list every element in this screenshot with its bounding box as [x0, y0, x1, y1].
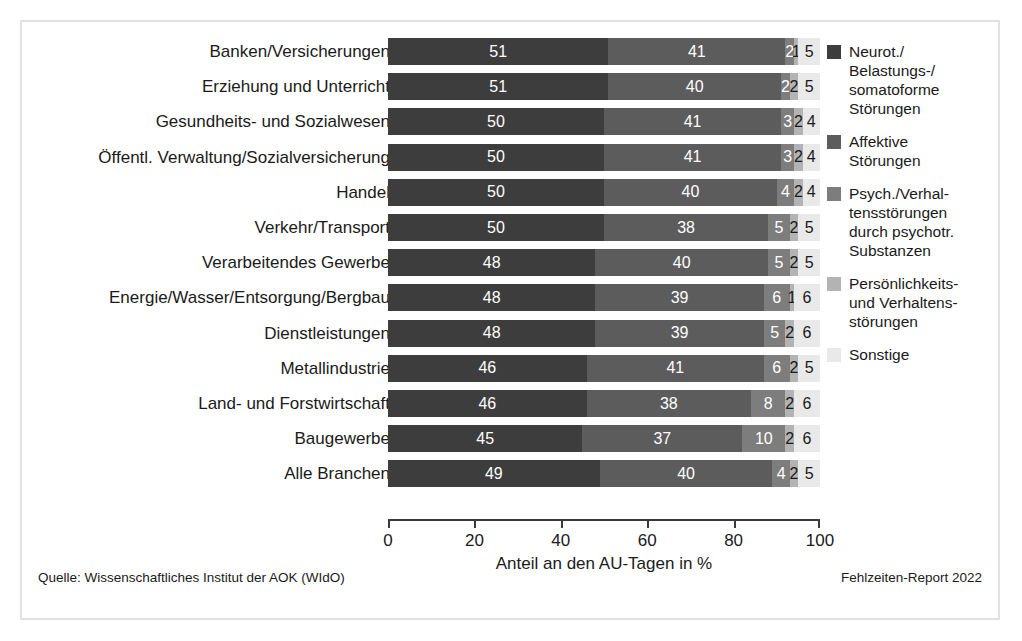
legend-item[interactable]: Neurot./ Belastungs-/ somatoforme Störun… — [827, 42, 1002, 118]
segment-value: 50 — [487, 220, 505, 236]
axis-tick — [734, 519, 736, 528]
bar-segment: 6 — [764, 355, 790, 382]
bar-segment: 50 — [388, 144, 604, 171]
segment-value: 6 — [803, 290, 812, 306]
segment-value: 2 — [781, 79, 790, 95]
bar-segment: 2 — [794, 179, 803, 206]
bar-segment: 41 — [608, 38, 785, 65]
stacked-bar: 4940425 — [388, 460, 820, 487]
legend-item[interactable]: Affektive Störungen — [827, 132, 1002, 170]
segment-value: 41 — [684, 149, 702, 165]
legend-label: Sonstige — [849, 345, 909, 364]
bar-segment: 50 — [388, 214, 604, 241]
segment-value: 50 — [487, 149, 505, 165]
stacked-bar: 4840525 — [388, 249, 820, 276]
segment-value: 5 — [805, 255, 814, 271]
bar-segment: 5 — [798, 460, 820, 487]
bar-segment: 48 — [388, 320, 595, 347]
segment-value: 4 — [781, 184, 790, 200]
bar-segment: 5 — [768, 214, 790, 241]
bar-segment: 6 — [794, 320, 820, 347]
bar-segment: 4 — [772, 460, 789, 487]
segment-value: 4 — [777, 466, 786, 482]
bar-segment: 41 — [604, 144, 781, 171]
chart-row: Baugewerbe45371026 — [22, 425, 1002, 452]
bar-segment: 40 — [608, 73, 781, 100]
bar-segment: 2 — [790, 73, 799, 100]
bar-segment: 2 — [794, 144, 803, 171]
stacked-bar: 4638826 — [388, 390, 820, 417]
axis-tick — [388, 519, 390, 528]
segment-value: 41 — [666, 360, 684, 376]
segment-value: 46 — [478, 360, 496, 376]
bar-segment: 50 — [388, 108, 604, 135]
axis-tick-label: 80 — [724, 531, 743, 551]
bar-segment: 2 — [785, 390, 794, 417]
segment-value: 4 — [807, 149, 816, 165]
segment-value: 40 — [673, 255, 691, 271]
segment-value: 51 — [489, 44, 507, 60]
segment-value: 5 — [805, 79, 814, 95]
segment-value: 6 — [772, 360, 781, 376]
bar-segment: 39 — [595, 320, 763, 347]
bar-segment: 46 — [388, 355, 587, 382]
category-label: Banken/Versicherungen — [30, 38, 390, 65]
segment-value: 40 — [677, 466, 695, 482]
bar-segment: 3 — [781, 144, 794, 171]
legend-label: Persönlichkeits- und Verhaltens- störung… — [849, 274, 958, 331]
segment-value: 4 — [807, 114, 816, 130]
bar-segment: 2 — [785, 320, 794, 347]
category-label: Baugewerbe — [30, 425, 390, 452]
bar-segment: 2 — [785, 425, 794, 452]
segment-value: 2 — [790, 255, 799, 271]
stacked-bar: 45371026 — [388, 425, 820, 452]
segment-value: 5 — [775, 255, 784, 271]
segment-value: 2 — [794, 184, 803, 200]
segment-value: 45 — [476, 431, 494, 447]
report-note: Fehlzeiten-Report 2022 — [841, 570, 982, 585]
category-label: Alle Branchen — [30, 460, 390, 487]
bar-segment: 4 — [803, 108, 820, 135]
segment-value: 38 — [677, 220, 695, 236]
segment-value: 49 — [485, 466, 503, 482]
segment-value: 5 — [805, 220, 814, 236]
segment-value: 50 — [487, 114, 505, 130]
stacked-bar: 5141215 — [388, 38, 820, 65]
legend-swatch-icon — [827, 45, 841, 59]
legend-label: Neurot./ Belastungs-/ somatoforme Störun… — [849, 42, 939, 118]
segment-value: 39 — [671, 290, 689, 306]
bar-segment: 41 — [587, 355, 764, 382]
legend-item[interactable]: Sonstige — [827, 345, 1002, 364]
bar-segment: 2 — [794, 108, 803, 135]
bar-segment: 4 — [803, 179, 820, 206]
segment-value: 8 — [764, 396, 773, 412]
category-label: Dienstleistungen — [30, 320, 390, 347]
bar-segment: 5 — [798, 73, 820, 100]
segment-value: 10 — [755, 431, 773, 447]
segment-value: 2 — [790, 360, 799, 376]
legend-item[interactable]: Psych./Verhal- tensstörungen durch psych… — [827, 184, 1002, 260]
bar-segment: 49 — [388, 460, 600, 487]
category-label: Handel — [30, 179, 390, 206]
segment-value: 6 — [803, 431, 812, 447]
segment-value: 3 — [783, 149, 792, 165]
segment-value: 46 — [478, 396, 496, 412]
bar-segment: 41 — [604, 108, 781, 135]
category-label: Energie/Wasser/Entsorgung/Bergbau — [30, 284, 390, 311]
segment-value: 51 — [489, 79, 507, 95]
bar-segment: 38 — [587, 390, 751, 417]
bar-segment: 38 — [604, 214, 768, 241]
bar-segment: 6 — [794, 390, 820, 417]
segment-value: 2 — [790, 466, 799, 482]
chart-row: Land- und Forstwirtschaft4638826 — [22, 390, 1002, 417]
legend-item[interactable]: Persönlichkeits- und Verhaltens- störung… — [827, 274, 1002, 331]
bar-segment: 3 — [781, 108, 794, 135]
segment-value: 6 — [772, 290, 781, 306]
bar-segment: 6 — [764, 284, 790, 311]
segment-value: 2 — [785, 396, 794, 412]
bar-segment: 2 — [790, 214, 799, 241]
bar-segment: 45 — [388, 425, 582, 452]
bar-segment: 51 — [388, 73, 608, 100]
legend-label: Affektive Störungen — [849, 132, 921, 170]
segment-value: 2 — [790, 220, 799, 236]
